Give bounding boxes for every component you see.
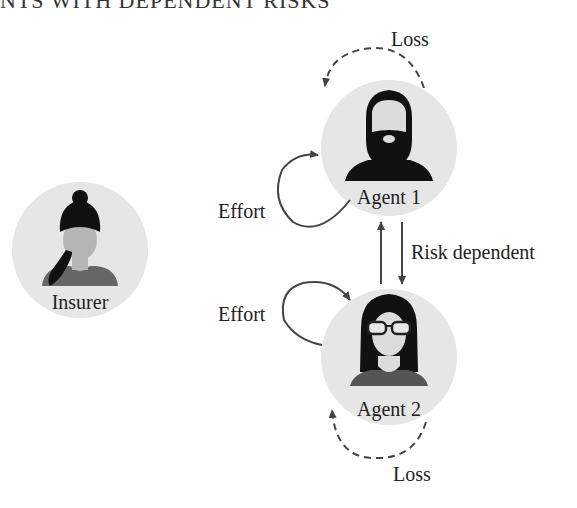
insurer-label: Insurer [12,291,148,314]
agent1-effort-label: Effort [218,200,265,223]
agent2-loss-label: Loss [393,463,431,486]
agent1-loss-label: Loss [391,28,429,51]
agent2-effort-label: Effort [218,303,265,326]
agent2-label: Agent 2 [321,398,457,421]
agent1-label: Agent 1 [321,186,457,209]
risk-dependent-label: Risk dependent [411,241,535,264]
